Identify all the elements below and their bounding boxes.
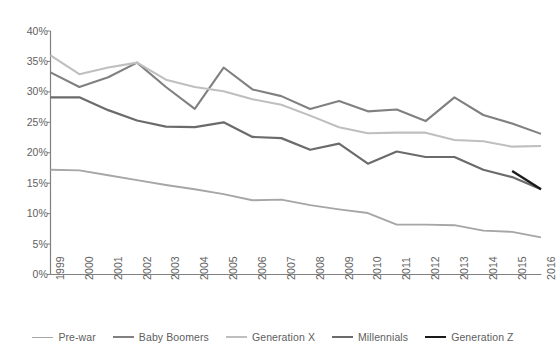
legend-label: Generation X [252,332,315,343]
x-axis-tick-label: 2000 [84,256,95,280]
x-axis-tick-label: 2002 [142,256,153,280]
legend-item[interactable]: Generation Z [425,332,513,343]
x-axis-tick-label: 2008 [315,256,326,280]
x-axis-tick-label: 2006 [257,256,268,280]
legend-item[interactable]: Generation X [226,332,315,343]
x-axis-tick-label: 2005 [228,256,239,280]
x-axis-tick-label: 2016 [546,256,557,280]
legend-line-swatch [332,336,353,338]
x-axis-tick-label: 2010 [372,256,383,280]
x-axis-tick-label: 2014 [488,256,499,280]
x-axis-tick-label: 2011 [401,257,412,280]
legend-line-swatch [32,337,53,338]
x-axis-tick-label: 2003 [170,256,181,280]
x-axis-tick-label: 2009 [344,256,355,280]
legend-item[interactable]: Millennials [332,332,408,343]
legend-label: Millennials [358,332,408,343]
legend-line-swatch [425,336,446,338]
x-axis-tick-labels: 1999200020012002200320042005200620072008… [0,0,546,320]
x-axis-tick-label: 2012 [430,256,441,280]
legend-label: Generation Z [451,332,513,343]
x-axis-tick-label: 2015 [517,256,528,280]
x-axis-tick-label: 2004 [199,256,210,280]
legend-item[interactable]: Baby Boomers [113,332,209,343]
legend-line-swatch [226,336,247,338]
chart-legend: Pre-warBaby BoomersGeneration XMillennia… [0,326,546,348]
legend-label: Baby Boomers [139,332,209,343]
legend-label: Pre-war [58,332,95,343]
x-axis-tick-label: 2001 [113,256,124,280]
legend-item[interactable]: Pre-war [32,332,95,343]
x-axis-tick-label: 2007 [286,256,297,280]
x-axis-tick-label: 2013 [459,256,470,280]
legend-line-swatch [113,336,134,338]
x-axis-tick-label: 1999 [55,256,66,280]
